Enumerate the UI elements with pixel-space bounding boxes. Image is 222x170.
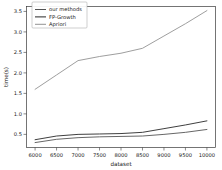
y-tick-label: 1.0 [14,111,22,117]
chart-figure: 0.51.01.52.02.53.03.5 600065007000750080… [0,0,222,170]
x-tick-label: 7500 [93,152,106,158]
y-tick-label: 2.0 [14,70,22,76]
x-tick-label: 6000 [28,152,41,158]
y-tick-label: 2.5 [14,49,22,55]
line-chart-canvas: 0.51.01.52.02.53.03.5 600065007000750080… [0,0,222,170]
y-tick-label: 3.5 [14,8,22,14]
x-tick-label: 8000 [114,152,127,158]
data-series-group [35,11,207,143]
y-axis-ticks: 0.51.01.52.02.53.03.5 [14,8,27,137]
x-tick-label: 7000 [71,152,84,158]
legend-label-fp-growth: FP-Growth [49,14,76,20]
x-axis-title: dataset [110,161,132,167]
x-tick-label: 6500 [50,152,63,158]
y-tick-label: 1.5 [14,90,22,96]
x-tick-label: 9000 [157,152,170,158]
x-tick-label: 8500 [136,152,149,158]
series-line-fp-growth [35,121,207,140]
chart-legend: our methodsFP-GrowthApriori [32,2,87,28]
x-tick-label: 9500 [179,152,192,158]
legend-label-apriori: Apriori [49,21,66,28]
legend-label-our-methods: our methods [49,6,82,12]
y-axis-title: time(s) [3,67,9,87]
y-tick-label: 3.0 [14,29,22,35]
x-axis-ticks: 6000650070007500800085009000950010000 [28,148,215,159]
x-tick-label: 10000 [199,152,216,158]
y-tick-label: 0.5 [14,131,22,137]
